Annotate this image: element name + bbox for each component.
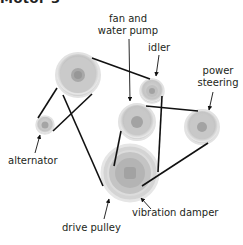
label-fan-line1: fan and xyxy=(95,13,161,25)
label-vibration-damper: vibration damper xyxy=(132,207,218,219)
label-ps-line1: power xyxy=(193,65,243,77)
pulley-large-upper xyxy=(56,53,100,97)
label-fan-line2: water pump xyxy=(95,25,161,37)
pulley-drive xyxy=(102,145,158,201)
label-idler: idler xyxy=(148,42,170,54)
label-alternator: alternator xyxy=(8,155,58,167)
pulley-idler xyxy=(140,79,164,103)
label-power-steering: power steering xyxy=(193,65,243,89)
pulley-power-steering xyxy=(185,110,219,144)
label-fan-water-pump: fan and water pump xyxy=(95,13,161,37)
pulley-alternator xyxy=(36,116,54,134)
pulley-fan-water-pump xyxy=(119,104,155,140)
label-ps-line2: steering xyxy=(193,77,243,89)
label-drive-pulley: drive pulley xyxy=(62,222,121,234)
